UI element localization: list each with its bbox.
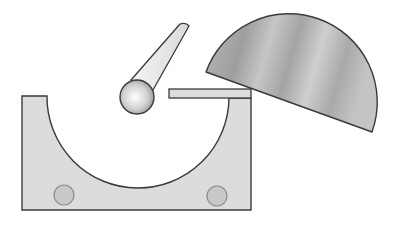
hole-left (54, 185, 74, 205)
mechanics-diagram (0, 0, 400, 230)
platform (169, 89, 251, 98)
ball (120, 80, 154, 114)
hole-right (207, 186, 227, 206)
